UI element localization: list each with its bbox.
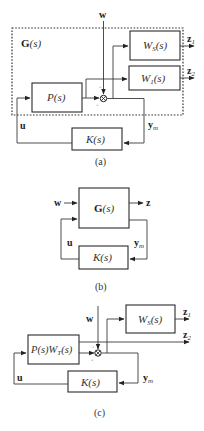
summing-junction xyxy=(95,350,101,356)
plant-block-label: P(s) xyxy=(46,91,66,104)
controller-block-label: K(s) xyxy=(80,376,100,389)
junction-sign-top: + xyxy=(92,344,95,349)
panel-c: w WS(s) z1 P(s)WT(s) z2 + + xyxy=(14,305,191,419)
signal-w-label: w xyxy=(99,9,107,20)
junction-sign-left: + xyxy=(91,357,94,362)
signal-u-label: u xyxy=(67,237,73,248)
generalized-plant-label: G(s) xyxy=(21,37,42,50)
block-diagrams: G(s) w WS(s) W1(s) z1 z2 P(s) xyxy=(0,0,204,431)
signal-w-label: w xyxy=(54,197,62,208)
summing-junction xyxy=(100,95,106,101)
signal-ym-label: ym xyxy=(134,237,144,250)
w1-block-label: W1(s) xyxy=(141,72,166,86)
generalized-plant-block-label: G(s) xyxy=(94,202,115,215)
signal-ym-label: ym xyxy=(143,372,153,385)
controller-block-label: K(s) xyxy=(92,251,112,264)
ws-block-label: WS(s) xyxy=(143,39,168,53)
signal-ym-label: ym xyxy=(148,119,158,132)
caption-c: (c) xyxy=(94,407,105,419)
signal-z-label: z xyxy=(146,197,151,208)
junction-to-ws-line xyxy=(102,319,125,353)
caption-a: (a) xyxy=(95,156,106,168)
junction-sign-left: + xyxy=(96,102,99,107)
controller-block-label: K(s) xyxy=(85,133,105,146)
panel-b: G(s) w z K(s) ym u (b) xyxy=(54,188,151,293)
junction-sign-top: + xyxy=(99,84,102,89)
signal-z1-label: z1 xyxy=(187,33,195,46)
signal-z2-label: z2 xyxy=(187,65,195,78)
signal-z2-label: z2 xyxy=(183,329,191,342)
panel-a: G(s) w WS(s) W1(s) z1 z2 P(s) xyxy=(12,9,195,168)
caption-b: (b) xyxy=(95,281,107,293)
signal-w-label: w xyxy=(86,313,94,324)
junction-to-ws-line xyxy=(107,46,128,99)
signal-u-label: u xyxy=(20,120,26,131)
ws-block-label: WS(s) xyxy=(138,313,163,327)
signal-z1-label: z1 xyxy=(183,306,191,319)
signal-u-label: u xyxy=(17,372,23,383)
